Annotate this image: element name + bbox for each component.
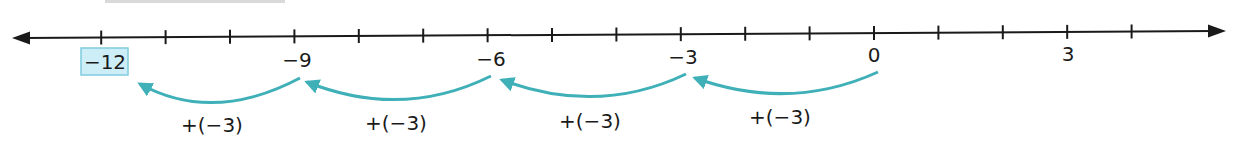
tick-label-minus-3: −3 xyxy=(668,45,697,69)
tick-label-0: 0 xyxy=(868,43,881,67)
tick-label-3: 3 xyxy=(1062,42,1075,66)
tick-label-minus-6: −6 xyxy=(476,47,505,71)
jump-arc-minus-3-to-minus-6 xyxy=(502,74,686,97)
jump-label-2: +(−3) xyxy=(559,109,621,133)
tick-label-minus-9: −9 xyxy=(282,48,311,72)
tick-label-minus-12: −12 xyxy=(84,50,126,74)
jump-arcs xyxy=(140,72,878,103)
jump-label-3: +(−3) xyxy=(365,111,427,135)
cutoff-heading xyxy=(105,0,285,3)
jump-arc-minus-9-to-minus-12 xyxy=(140,78,300,103)
right-arrow-icon xyxy=(1208,25,1226,38)
jump-labels: +(−3) +(−3) +(−3) +(−3) xyxy=(181,105,811,137)
axis-line xyxy=(22,31,1215,38)
left-arrow-icon xyxy=(12,32,30,45)
jump-arc-0-to-minus-3 xyxy=(695,72,878,94)
jump-label-1: +(−3) xyxy=(749,105,811,129)
axis xyxy=(12,25,1226,45)
jump-arc-minus-6-to-minus-9 xyxy=(307,76,491,100)
jump-label-4: +(−3) xyxy=(181,113,243,137)
tick-marks xyxy=(101,24,1131,44)
tick-labels: −12 −9 −6 −3 0 3 xyxy=(84,42,1074,74)
number-line-diagram: −12 −9 −6 −3 0 3 +(−3) +(−3) +(−3) +(−3) xyxy=(0,0,1233,147)
